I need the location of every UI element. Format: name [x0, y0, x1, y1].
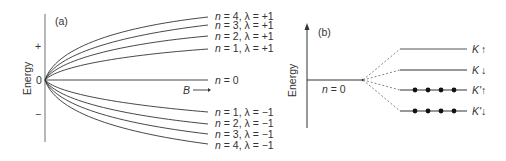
split-dashed-kprime-down	[363, 80, 400, 111]
panel-a-label: (a)	[55, 15, 68, 27]
label-kprime-up: K'↑	[472, 84, 486, 96]
label-k-up: K↑	[472, 43, 486, 55]
electron-dot	[426, 109, 431, 114]
energy-axis-label-b: Energy	[286, 63, 298, 97]
panel-b: (b) Energy n = 0 K↑ K↓ K	[286, 23, 486, 128]
split-dashed-kprime-up	[363, 80, 400, 90]
electron-dot	[426, 88, 431, 93]
energy-axis-label-a: Energy	[21, 61, 33, 95]
label-n1-plus: n = 1, λ = +1	[215, 42, 274, 54]
base-level-label: n = 0	[322, 83, 346, 95]
electron-dot	[413, 109, 418, 114]
label-n2-plus: n = 2, λ = +1	[215, 30, 274, 42]
label-n4-minus: n = 4, λ = −1	[215, 139, 274, 151]
origin-label: 0	[36, 74, 42, 86]
b-field-arrowhead-icon	[208, 88, 211, 92]
level-n4-plus-curve	[45, 17, 208, 80]
level-n3-plus-curve	[45, 25, 208, 80]
plus-sign: +	[35, 40, 41, 52]
electron-dot	[452, 109, 457, 114]
electron-dot	[439, 88, 444, 93]
split-dashed-k-up	[363, 49, 400, 80]
split-dashed-k-down	[363, 70, 400, 80]
label-k-down: K↓	[472, 64, 486, 76]
electron-dot	[439, 109, 444, 114]
landau-level-diagram: (a) Energy + − 0 B n = 4, λ = +1 n = 3, …	[0, 0, 506, 161]
panel-b-label: (b)	[318, 26, 331, 38]
b-field-label: B	[183, 84, 190, 96]
minus-sign: −	[35, 108, 41, 120]
electron-dot	[413, 88, 418, 93]
label-n0: n = 0	[215, 74, 239, 86]
electron-dot	[452, 88, 457, 93]
panel-a: (a) Energy + − 0 B n = 4, λ = +1 n = 3, …	[21, 10, 274, 151]
label-kprime-down: K'↓	[472, 105, 486, 117]
energy-axis-arrowhead-icon	[305, 23, 310, 30]
level-n1-plus-curve	[45, 49, 208, 80]
